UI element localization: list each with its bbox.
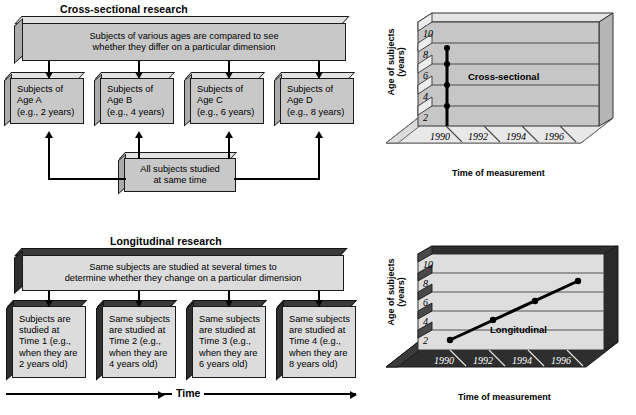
svg-text:1996: 1996 xyxy=(551,355,571,366)
arrow-up-age-b xyxy=(135,131,143,138)
svg-text:10: 10 xyxy=(423,28,433,39)
svg-text:1994: 1994 xyxy=(512,355,532,366)
connector-footer-to-age-d-vertical xyxy=(318,138,320,180)
svg-text:1992: 1992 xyxy=(473,355,493,366)
svg-text:Cross-sectional: Cross-sectional xyxy=(468,71,539,82)
svg-text:8: 8 xyxy=(423,49,428,60)
time-box-4: Same subjects are studied at Time 4 (e.g… xyxy=(282,306,356,378)
cross-sectional-header-text: Subjects of various ages are compared to… xyxy=(85,31,282,54)
longitudinal-header-box: Same subjects are studied at several tim… xyxy=(22,255,344,291)
cross-sectional-flow-panel: Cross-sectional research Subjects of var… xyxy=(0,0,366,215)
cross-sectional-header-box: Subjects of various ages are compared to… xyxy=(22,23,346,61)
arrow-up-age-c xyxy=(225,131,233,138)
time-box-2: Same subjects are studied at Time 2 (e.g… xyxy=(102,306,176,378)
svg-text:Longitudinal: Longitudinal xyxy=(490,324,547,335)
arrow-down-age-a xyxy=(45,72,53,79)
longitudinal-chart-panel: 10 8 6 4 2 1990 1992 1994 1996 Longitudi… xyxy=(370,240,636,415)
longitudinal-y-axis-line2: (years) xyxy=(396,277,406,307)
svg-text:4: 4 xyxy=(423,91,428,102)
longitudinal-chart-svg: 10 8 6 4 2 1990 1992 1994 1996 Longitudi… xyxy=(370,240,636,415)
time-box-1-text: Subjects are studied at Time 1 (e.g., wh… xyxy=(13,314,81,371)
longitudinal-y-axis-title: Age of subjects (years) xyxy=(386,244,407,340)
age-box-c: Subjects of Age C (e.g., 6 years) xyxy=(190,78,264,124)
svg-text:1994: 1994 xyxy=(506,131,526,142)
age-box-b-text: Subjects of Age B (e.g., 4 years) xyxy=(101,84,168,118)
longitudinal-header-text: Same subjects are studied at several tim… xyxy=(61,262,306,285)
cross-sectional-y-axis-line1: Age of subjects xyxy=(386,29,396,96)
time-axis-label: Time xyxy=(172,387,204,399)
cross-sectional-chart-svg: 10 8 6 4 2 1990 1992 1994 1996 Cross-sec… xyxy=(370,0,636,215)
svg-text:2: 2 xyxy=(423,112,428,123)
time-box-1: Subjects are studied at Time 1 (e.g., wh… xyxy=(12,306,86,378)
longitudinal-flow-panel: Longitudinal research Same subjects are … xyxy=(0,232,366,415)
age-box-a-text: Subjects of Age A (e.g., 2 years) xyxy=(11,84,78,118)
cross-sectional-x-axis-title: Time of measurement xyxy=(452,168,545,178)
svg-text:1990: 1990 xyxy=(434,355,454,366)
arrow-up-age-a xyxy=(45,131,53,138)
age-box-c-text: Subjects of Age C (e.g., 6 years) xyxy=(191,84,258,118)
time-box-3: Same subjects are studied at Time 3 (e.g… xyxy=(192,306,266,378)
cross-sectional-y-axis-title: Age of subjects (years) xyxy=(386,14,407,110)
longitudinal-x-axis-title: Time of measurement xyxy=(458,392,551,402)
connector-footer-to-age-c xyxy=(228,138,230,159)
arrow-down-time2 xyxy=(135,300,143,307)
time-axis-arrow-mid xyxy=(158,391,165,399)
svg-text:6: 6 xyxy=(423,70,428,81)
arrow-down-age-c xyxy=(225,72,233,79)
connector-footer-to-age-d-horizontal xyxy=(234,178,320,180)
time-axis-arrow-right xyxy=(350,391,357,399)
svg-text:10: 10 xyxy=(423,259,433,270)
arrow-down-age-d xyxy=(315,72,323,79)
age-box-b: Subjects of Age B (e.g., 4 years) xyxy=(100,78,174,124)
connector-footer-to-age-b xyxy=(138,138,140,159)
connector-footer-to-age-a-vertical xyxy=(48,138,50,180)
time-box-4-text: Same subjects are studied at Time 4 (e.g… xyxy=(283,314,354,371)
cross-sectional-y-axis-line2: (years) xyxy=(396,47,406,77)
age-box-d-text: Subjects of Age D (e.g., 8 years) xyxy=(281,84,348,118)
time-box-3-text: Same subjects are studied at Time 3 (e.g… xyxy=(193,314,264,371)
arrow-down-age-b xyxy=(135,72,143,79)
arrow-down-time1 xyxy=(45,300,53,307)
svg-text:1990: 1990 xyxy=(430,131,450,142)
svg-text:6: 6 xyxy=(423,297,428,308)
svg-text:8: 8 xyxy=(423,278,428,289)
arrow-down-time3 xyxy=(225,300,233,307)
svg-text:2: 2 xyxy=(423,335,428,346)
all-subjects-studied-box: All subjects studied at same time xyxy=(124,158,236,192)
cross-sectional-title: Cross-sectional research xyxy=(60,3,188,15)
all-subjects-studied-text: All subjects studied at same time xyxy=(136,164,224,187)
arrow-up-age-d xyxy=(315,131,323,138)
svg-text:4: 4 xyxy=(423,316,428,327)
svg-text:1992: 1992 xyxy=(468,131,488,142)
age-box-a: Subjects of Age A (e.g., 2 years) xyxy=(10,78,84,124)
connector-footer-to-age-a-horizontal xyxy=(48,178,126,180)
time-box-2-text: Same subjects are studied at Time 2 (e.g… xyxy=(103,314,174,371)
svg-text:1996: 1996 xyxy=(544,131,564,142)
longitudinal-title: Longitudinal research xyxy=(110,235,222,247)
cross-sectional-chart-panel: 10 8 6 4 2 1990 1992 1994 1996 Cross-sec… xyxy=(370,0,636,215)
longitudinal-y-axis-line1: Age of subjects xyxy=(386,259,396,326)
arrow-down-time4 xyxy=(315,300,323,307)
age-box-d: Subjects of Age D (e.g., 8 years) xyxy=(280,78,354,124)
